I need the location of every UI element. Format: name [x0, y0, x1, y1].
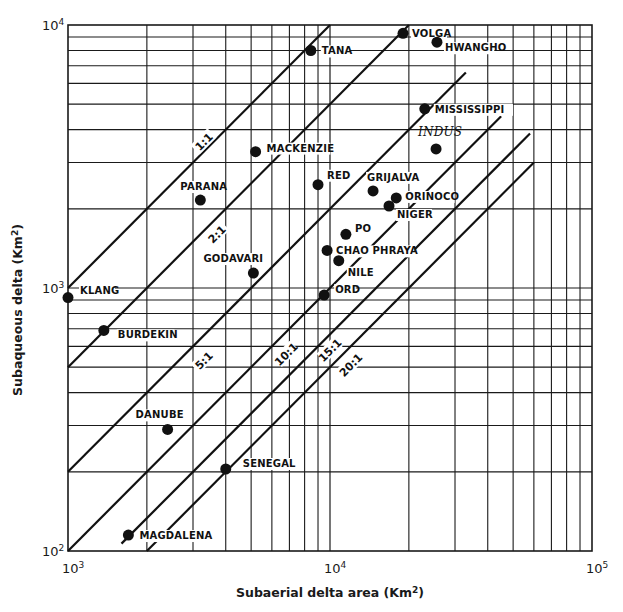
point-label: CHAO PHRAYA: [336, 245, 418, 256]
ratio-line: [68, 25, 409, 367]
point-label: SENEGAL: [243, 458, 296, 469]
x-axis-title: Subaerial delta area (Km2): [236, 585, 424, 600]
ratio-line: [121, 134, 530, 544]
point-label: HWANGHO: [445, 42, 507, 53]
point-label: NILE: [348, 267, 374, 278]
point-label: NIGER: [397, 209, 433, 220]
data-point: [123, 530, 134, 541]
point-label: INDUS: [417, 125, 462, 139]
data-point: [63, 292, 74, 303]
data-point: [248, 268, 259, 279]
x-tick-label: 104: [324, 560, 347, 576]
data-point: [431, 143, 442, 154]
data-point: [319, 290, 330, 301]
ratio-label: 10:1: [272, 340, 301, 369]
x-axis-ticks: 103104105: [62, 560, 608, 576]
point-label: KLANG: [80, 285, 119, 296]
data-point: [368, 185, 379, 196]
x-tick-label: 103: [62, 560, 84, 576]
delta-area-chart: 1:12:15:110:115:120:1 KLANGBURDEKINDANUB…: [0, 0, 623, 612]
point-label: RED: [327, 170, 350, 181]
data-point: [313, 179, 324, 190]
data-point: [384, 201, 395, 212]
point-label: TANA: [322, 45, 353, 56]
point-label: VOLGA: [412, 28, 451, 39]
data-point: [195, 195, 206, 206]
data-point: [398, 28, 409, 39]
data-point: [322, 245, 333, 256]
x-tick-label: 105: [586, 560, 608, 576]
data-point: [340, 229, 351, 240]
data-point: [305, 45, 316, 56]
data-point: [333, 255, 344, 266]
point-label: MISSISSIPPI: [435, 104, 505, 115]
data-point: [162, 424, 173, 435]
point-label: BURDEKIN: [118, 329, 178, 340]
point-label: GRIJALVA: [367, 172, 420, 183]
data-point: [431, 37, 442, 48]
point-label: PARANA: [180, 181, 227, 192]
data-point: [250, 146, 261, 157]
y-axis-ticks: 102103104: [42, 17, 65, 559]
point-label: GODAVARI: [203, 253, 263, 264]
point-label: DANUBE: [136, 409, 184, 420]
data-point: [220, 464, 231, 475]
point-label: ORINOCO: [405, 191, 459, 202]
y-tick-label: 104: [42, 17, 65, 33]
data-point: [419, 103, 430, 114]
point-label: ORD: [335, 284, 360, 295]
data-point: [98, 325, 109, 336]
point-label: MACKENZIE: [267, 143, 335, 154]
ratio-line: [68, 72, 466, 471]
point-label: PO: [355, 223, 371, 234]
data-points: KLANGBURDEKINDANUBEMAGDALENASENEGALPARAN…: [63, 28, 513, 542]
point-label: MAGDALENA: [139, 530, 212, 541]
y-axis-title: Subaqueous delta (Km2): [10, 224, 25, 396]
y-tick-label: 102: [42, 543, 64, 559]
y-tick-label: 103: [42, 280, 64, 296]
